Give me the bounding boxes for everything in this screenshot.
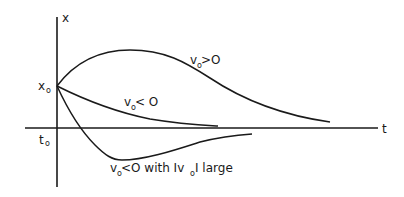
initial-position-label: x o	[38, 79, 51, 95]
initial-time-label: t o	[39, 133, 50, 148]
label-negative-large-velocity: v o <O with Iv o I large	[110, 161, 233, 178]
vertical-axis-label: x	[62, 11, 69, 25]
svg-text:x: x	[38, 79, 45, 93]
svg-text:< O: < O	[135, 95, 158, 109]
svg-text:<O with Iv: <O with Iv	[121, 161, 184, 175]
svg-text:t: t	[39, 133, 44, 147]
trajectory-diagram: x t x o t o v o >O v o < O v o <O with I…	[0, 0, 404, 197]
svg-text:I large: I large	[195, 161, 233, 175]
label-positive-velocity: v o >O	[190, 53, 221, 70]
svg-text:o: o	[45, 139, 50, 148]
svg-text:>O: >O	[201, 53, 221, 67]
svg-text:o: o	[46, 86, 51, 95]
label-negative-velocity: v o < O	[124, 95, 158, 112]
horizontal-axis-label: t	[382, 122, 387, 136]
